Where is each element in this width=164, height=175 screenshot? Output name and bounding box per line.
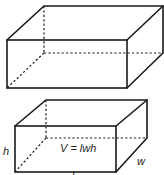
height-label: h (3, 145, 9, 157)
top-prism-front-face (7, 40, 127, 88)
rectangular-prism-diagram: h V = lwh w l (0, 0, 164, 175)
bottom-prism-visible-back-edges (15, 100, 147, 172)
top-prism (7, 6, 163, 88)
top-prism-top-right-edge (127, 6, 163, 40)
bottom-prism: h V = lwh w l (3, 100, 147, 175)
bottom-prism-top-right-edge (116, 100, 147, 126)
volume-formula: V = lwh (60, 142, 96, 154)
width-label: w (137, 155, 146, 167)
top-prism-hidden-depth-edge (7, 53, 44, 88)
bottom-prism-hidden-depth-edge (15, 138, 46, 172)
top-prism-visible-back-edges (7, 6, 163, 88)
